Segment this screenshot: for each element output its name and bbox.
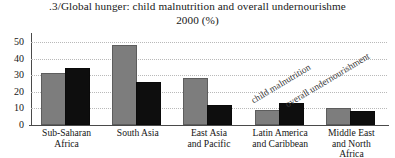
- bar-group: [31, 34, 102, 125]
- bar: [255, 110, 280, 125]
- x-axis-category-labels: Sub-SaharanAfricaSouth AsiaEast Asiaand …: [31, 128, 387, 158]
- bar: [136, 82, 161, 125]
- category-label-line: Middle East: [306, 128, 395, 139]
- category-label-line: Africa: [22, 139, 112, 150]
- bar: [183, 78, 208, 125]
- bar: [65, 68, 90, 125]
- y-axis-tick-30: 30: [0, 70, 24, 80]
- y-axis-tick-10: 10: [0, 103, 24, 113]
- bar-chart: .3/Global hunger: child malnutrition and…: [0, 0, 395, 158]
- y-axis-tick-0: 0: [0, 120, 24, 130]
- y-axis-tick-50: 50: [0, 37, 24, 47]
- bar-group: [173, 34, 244, 125]
- bar: [326, 108, 351, 125]
- bar: [41, 73, 66, 125]
- category-label-line: Africa: [306, 149, 395, 158]
- bar-group: [102, 34, 173, 125]
- category-label: Middle Eastand NorthAfrica: [306, 128, 395, 158]
- y-axis-tick-40: 40: [0, 54, 24, 64]
- y-axis-tick-labels: 01020304050: [0, 34, 27, 125]
- chart-title-line-2: 2000 (%): [0, 13, 395, 27]
- y-axis-tick-20: 20: [0, 87, 24, 97]
- bar: [112, 45, 137, 125]
- chart-title-line-1: .3/Global hunger: child malnutrition and…: [0, 0, 395, 13]
- bar: [350, 111, 375, 125]
- x-axis-line: [29, 125, 389, 126]
- bar: [207, 105, 232, 125]
